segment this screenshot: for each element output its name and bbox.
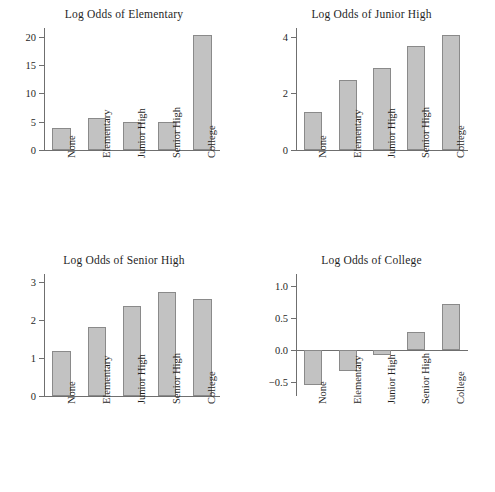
x-axis-category-label: College bbox=[206, 371, 217, 404]
chart-title: Log Odds of Elementary bbox=[0, 8, 248, 20]
y-tick-label: 15 bbox=[26, 59, 37, 70]
x-axis-category-label: Junior High bbox=[386, 108, 397, 158]
x-axis-category-label: None bbox=[317, 381, 328, 404]
bar bbox=[407, 332, 425, 350]
bar bbox=[304, 350, 322, 385]
x-axis-category-label: Elementary bbox=[101, 110, 112, 158]
y-tick-label: 20 bbox=[26, 31, 37, 42]
chart-panel-elementary: Log Odds of Elementary 05101520 NoneElem… bbox=[0, 0, 248, 246]
plot-area: 05101520 NoneElementaryJunior HighSenior… bbox=[44, 28, 220, 150]
y-tick-label: 2 bbox=[283, 88, 288, 99]
y-tick bbox=[291, 150, 296, 151]
x-axis-category-label: Junior High bbox=[136, 354, 147, 404]
x-axis-category-label: College bbox=[455, 371, 466, 404]
x-axis-category-label: Elementary bbox=[352, 110, 363, 158]
y-tick-label: 10 bbox=[26, 88, 37, 99]
x-axis-category-label: College bbox=[455, 125, 466, 158]
bar-series bbox=[44, 274, 220, 396]
chart-title: Log Odds of College bbox=[248, 254, 495, 266]
y-tick-label: 0 bbox=[283, 145, 288, 156]
y-tick bbox=[39, 396, 44, 397]
x-axis-category-label: None bbox=[66, 135, 77, 158]
x-axis-category-label: Senior High bbox=[171, 107, 182, 158]
x-axis-category-label: Senior High bbox=[171, 353, 182, 404]
plot-area: 024 NoneElementaryJunior HighSenior High… bbox=[296, 28, 468, 150]
y-tick bbox=[39, 150, 44, 151]
x-axis-category-label: Senior High bbox=[420, 353, 431, 404]
plot-area: 0123 NoneElementaryJunior HighSenior Hig… bbox=[44, 274, 220, 396]
y-tick-label: 4 bbox=[283, 31, 288, 42]
x-axis-category-label: Senior High bbox=[420, 107, 431, 158]
chart-panel-junior-high: Log Odds of Junior High 024 NoneElementa… bbox=[248, 0, 495, 246]
figure-panel-grid: Log Odds of Elementary 05101520 NoneElem… bbox=[0, 0, 495, 492]
y-tick-label: 3 bbox=[31, 276, 36, 287]
x-axis-category-label: College bbox=[206, 125, 217, 158]
x-axis-category-label: Elementary bbox=[101, 356, 112, 404]
y-tick-label: 0 bbox=[31, 391, 36, 402]
bar-series bbox=[296, 274, 468, 396]
chart-title: Log Odds of Senior High bbox=[0, 254, 248, 266]
x-axis-category-label: Elementary bbox=[352, 356, 363, 404]
y-tick-label: 0 bbox=[31, 145, 36, 156]
chart-panel-college: Log Odds of College −0.50.00.51.0 NoneEl… bbox=[248, 246, 495, 492]
x-axis-category-label: None bbox=[317, 135, 328, 158]
x-axis-category-label: Junior High bbox=[386, 354, 397, 404]
y-tick-label: −0.5 bbox=[269, 376, 288, 387]
y-tick-label: 0.0 bbox=[275, 344, 288, 355]
y-tick-label: 0.5 bbox=[275, 312, 288, 323]
bar-series bbox=[44, 28, 220, 150]
plot-area: −0.50.00.51.0 NoneElementaryJunior HighS… bbox=[296, 274, 468, 396]
y-tick-label: 1 bbox=[31, 352, 36, 363]
x-axis-category-label: None bbox=[66, 381, 77, 404]
chart-title: Log Odds of Junior High bbox=[248, 8, 495, 20]
x-axis-category-label: Junior High bbox=[136, 108, 147, 158]
bar-series bbox=[296, 28, 468, 150]
y-tick-label: 2 bbox=[31, 314, 36, 325]
y-tick-label: 1.0 bbox=[275, 280, 288, 291]
y-tick-label: 5 bbox=[31, 116, 36, 127]
bar bbox=[442, 304, 460, 350]
chart-panel-senior-high: Log Odds of Senior High 0123 NoneElement… bbox=[0, 246, 248, 492]
